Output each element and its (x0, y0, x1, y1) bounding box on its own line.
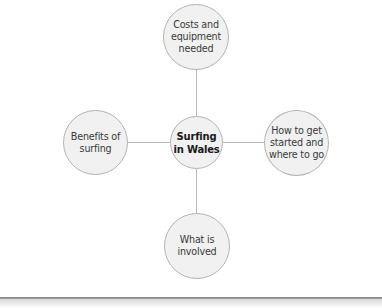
node-benefits-of-surfing: Benefits of surfing (63, 110, 128, 175)
connector-left (128, 142, 171, 143)
node-what-is-involved: What is involved (164, 213, 230, 279)
connector-bottom (196, 169, 197, 214)
node-costs-and-equipment: Costs and equipment needed (163, 4, 229, 70)
center-label: Surfing in Wales (173, 130, 219, 156)
node-how-to-get-started: How to get started and where to go (264, 110, 329, 176)
bottom-shadow (0, 299, 382, 308)
node-center-topic: Surfing in Wales (170, 116, 223, 169)
node-label: What is involved (177, 234, 216, 258)
node-label: Benefits of surfing (71, 131, 120, 155)
node-label: How to get started and where to go (269, 125, 324, 161)
connector-right (222, 142, 266, 143)
spider-diagram: Costs and equipment needed Benefits of s… (0, 0, 382, 308)
connector-top (196, 70, 197, 116)
node-label: Costs and equipment needed (171, 19, 221, 55)
